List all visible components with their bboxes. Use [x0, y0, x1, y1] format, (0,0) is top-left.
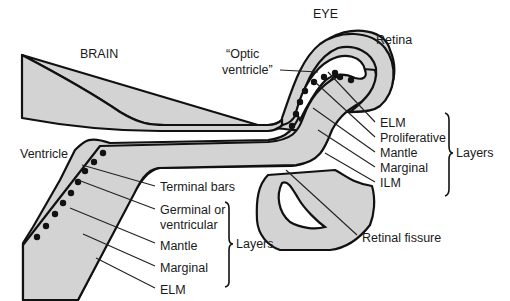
brain-layers-brace [225, 202, 233, 287]
brain-layers-label: Layers [236, 237, 274, 251]
brain-label: BRAIN [80, 47, 118, 61]
germinal-label-2: ventricular [160, 218, 218, 232]
brain-marginal-label: Marginal [160, 261, 208, 275]
optic-ventricle-label-1: “Optic [226, 47, 259, 61]
lens-tissue [257, 170, 374, 250]
eye-elm-label: ELM [380, 116, 406, 130]
eye-marginal-label: Marginal [380, 161, 428, 175]
retina-label: Retina [376, 33, 412, 47]
ventricle-label: Ventricle [20, 147, 68, 161]
optic-ventricle-label-2: ventricle” [222, 63, 273, 77]
brain-mantle-label: Mantle [160, 239, 198, 253]
eye-ilm-label: ILM [380, 176, 401, 190]
germinal-label-1: Germinal or [160, 203, 225, 217]
brain-elm-label: ELM [160, 283, 186, 297]
terminal-bars-label: Terminal bars [160, 180, 235, 194]
brain-eye-development-diagram: BRAIN EYE Retina “Optic ventricle” Ventr… [0, 0, 510, 301]
eye-layers-label: Layers [456, 146, 494, 160]
eye-layers-brace [445, 113, 453, 196]
eye-proliferative-label: Proliferative [380, 131, 446, 145]
eye-mantle-label: Mantle [380, 146, 418, 160]
eye-label: EYE [313, 7, 338, 21]
retinal-fissure-label: Retinal fissure [362, 231, 441, 245]
